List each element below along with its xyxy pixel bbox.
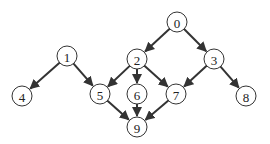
node-label: 6: [134, 88, 141, 103]
edge-0-to-2: [145, 29, 170, 52]
node-8: 8: [236, 86, 256, 106]
graph-diagram: 0123456789: [0, 0, 270, 144]
edge-3-to-7: [184, 66, 207, 87]
node-3: 3: [204, 49, 224, 69]
node-label: 9: [134, 121, 141, 136]
node-label: 1: [64, 50, 71, 65]
edge-2-to-5: [108, 66, 130, 87]
node-label: 0: [174, 16, 181, 31]
node-label: 4: [19, 90, 26, 105]
node-5: 5: [90, 84, 110, 104]
node-0: 0: [167, 12, 187, 32]
node-label: 8: [243, 90, 250, 105]
node-6: 6: [127, 84, 147, 104]
node-label: 3: [211, 53, 218, 68]
node-7: 7: [166, 84, 186, 104]
edge-3-to-8: [221, 67, 239, 88]
node-1: 1: [57, 46, 77, 66]
node-label: 5: [97, 88, 104, 103]
nodes-layer: 0123456789: [12, 12, 256, 137]
node-9: 9: [127, 117, 147, 137]
edge-5-to-9: [107, 101, 128, 120]
edge-2-to-7: [144, 66, 167, 87]
edge-0-to-3: [184, 29, 206, 51]
edge-7-to-9: [145, 100, 168, 119]
node-2: 2: [127, 49, 147, 69]
node-label: 7: [173, 88, 180, 103]
edge-1-to-4: [30, 63, 59, 89]
edges-layer: [30, 29, 239, 120]
node-4: 4: [12, 86, 32, 106]
node-label: 2: [134, 53, 141, 68]
edge-1-to-5: [74, 64, 93, 86]
